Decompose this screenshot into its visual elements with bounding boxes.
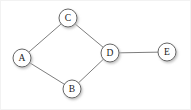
graph-node-a[interactable]: A bbox=[13, 49, 31, 67]
graph-edge-c-d bbox=[75, 24, 103, 47]
graph-figure: ABCDE bbox=[0, 0, 191, 110]
graph-node-b[interactable]: B bbox=[63, 80, 81, 98]
node-label-c: C bbox=[65, 13, 71, 23]
graph-edge-a-b bbox=[30, 63, 65, 85]
node-label-d: D bbox=[107, 48, 114, 58]
node-label-a: A bbox=[19, 53, 26, 63]
node-label-b: B bbox=[69, 84, 75, 94]
graph-node-c[interactable]: C bbox=[59, 9, 77, 27]
graph-edge-a-c bbox=[29, 24, 61, 52]
graph-edge-b-d bbox=[79, 59, 104, 83]
graph-node-e[interactable]: E bbox=[158, 43, 176, 61]
graph-node-d[interactable]: D bbox=[101, 44, 119, 62]
graph-canvas: ABCDE bbox=[0, 0, 191, 110]
nodes-group: ABCDE bbox=[13, 9, 176, 98]
node-label-e: E bbox=[164, 47, 170, 57]
edges-group bbox=[29, 24, 158, 85]
graph-edge-d-e bbox=[119, 52, 158, 53]
